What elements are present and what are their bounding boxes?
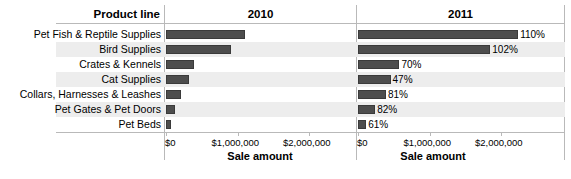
bar-2011[interactable] (358, 90, 386, 99)
bar-2011[interactable] (358, 60, 399, 69)
axis-tick-label: $0 (357, 137, 368, 149)
bar-2010[interactable] (166, 75, 189, 84)
axis-tick (358, 132, 359, 136)
bar-2010[interactable] (166, 105, 175, 114)
row-label: Pet Beds (0, 117, 161, 132)
bar-2011[interactable] (358, 30, 518, 39)
axis-tick-label: $1,000,000 (212, 137, 260, 149)
bar-2010[interactable] (166, 30, 245, 39)
row-label: Pet Gates & Pet Doors (0, 102, 161, 117)
bar-2010[interactable] (166, 60, 194, 69)
sales-comparison-chart: Product line 2010 2011 Pet Fish & Reptil… (0, 0, 571, 179)
axis-tick (501, 132, 502, 136)
bar-value-label: 110% (520, 29, 545, 40)
axis-tick (166, 132, 167, 136)
bar-value-label: 102% (492, 44, 518, 55)
bar-value-label: 82% (377, 104, 397, 115)
axis-tick-label: $2,000,000 (475, 137, 523, 149)
bar-value-label: 61% (368, 119, 388, 130)
axis-tick-label: $0 (165, 137, 176, 149)
bar-2011[interactable] (358, 75, 391, 84)
column-header-2011: 2011 (357, 7, 564, 21)
axis-tick (430, 132, 431, 136)
axis-tick (309, 132, 310, 136)
column-header-2010: 2010 (165, 7, 356, 21)
bar-value-label: 47% (393, 74, 413, 85)
axis-title: Sale amount (358, 150, 508, 163)
row-label: Cat Supplies (0, 72, 161, 87)
header-divider-rule (56, 23, 565, 24)
bar-2010[interactable] (166, 45, 231, 54)
column-header-product-line: Product line (0, 7, 160, 21)
bar-value-label: 81% (388, 89, 408, 100)
bar-value-label: 70% (401, 59, 421, 70)
axis-title: Sale amount (166, 150, 354, 163)
bar-2011[interactable] (358, 105, 375, 114)
axis-tick-label: $2,000,000 (283, 137, 331, 149)
axis-tick-label: $1,000,000 (404, 137, 452, 149)
bar-2011[interactable] (358, 45, 490, 54)
bar-2010[interactable] (166, 120, 171, 129)
bar-2010[interactable] (166, 90, 181, 99)
row-label: Bird Supplies (0, 42, 161, 57)
row-label: Crates & Kennels (0, 57, 161, 72)
bar-2011[interactable] (358, 120, 366, 129)
axis-baseline-rule (56, 132, 565, 133)
row-label: Collars, Harnesses & Leashes (0, 87, 161, 102)
row-label: Pet Fish & Reptile Supplies (0, 27, 161, 42)
axis-tick (238, 132, 239, 136)
